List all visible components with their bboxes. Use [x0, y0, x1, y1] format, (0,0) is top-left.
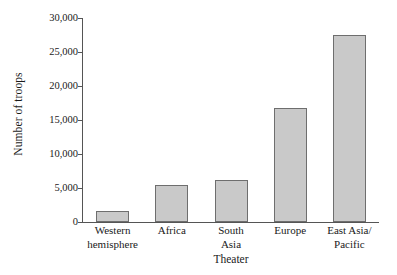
y-axis-tick-mark	[78, 154, 82, 155]
y-axis-tick-mark	[78, 18, 82, 19]
y-axis-tick-label: 10,000	[24, 149, 78, 159]
y-axis-tick-mark	[78, 120, 82, 121]
plot-area	[83, 18, 379, 222]
y-axis-tick-mark	[78, 52, 82, 53]
y-axis-tick-label: 0	[24, 217, 78, 227]
y-axis-tick-label: 25,000	[24, 47, 78, 57]
bar-chart: Number of troops 05,00010,00015,00020,00…	[0, 0, 397, 275]
y-axis-tick-label: 30,000	[24, 13, 78, 23]
bar[interactable]	[215, 180, 248, 222]
y-axis-tick-label: 15,000	[24, 115, 78, 125]
x-axis-category-labels: Western hemisphereAfricaSouth AsiaEurope…	[83, 224, 379, 254]
bar[interactable]	[274, 108, 307, 222]
bar[interactable]	[155, 185, 188, 222]
bar[interactable]	[96, 211, 129, 222]
x-axis-line	[82, 222, 379, 223]
y-axis-tick-label: 20,000	[24, 81, 78, 91]
y-axis-tick-mark	[78, 222, 82, 223]
x-axis-title: Theater	[83, 253, 379, 265]
y-axis-tick-label: 5,000	[24, 183, 78, 193]
x-axis-category-label: East Asia/ Pacific	[312, 224, 387, 251]
y-axis-tick-labels: 05,00010,00015,00020,00025,00030,000	[24, 0, 78, 275]
y-axis-tick-mark	[78, 86, 82, 87]
bar[interactable]	[333, 35, 366, 222]
y-axis-tick-mark	[78, 188, 82, 189]
